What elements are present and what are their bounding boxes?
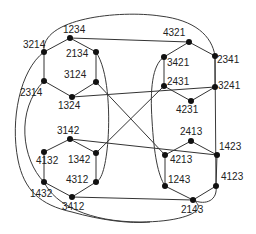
vertex-label: 1243 [168,174,191,185]
edge-3421-1243 [151,57,165,186]
vertex-label: 2143 [181,204,204,215]
vertex-label: 1234 [63,24,86,35]
diagram-canvas: 1234213431241324231432144321234132414231… [0,0,256,234]
vertex-1234 [67,35,73,41]
vertex-label: 2431 [167,76,190,87]
vertex-1432 [41,179,47,185]
edge-3421-4321 [164,42,189,57]
vertex-label: 4132 [36,155,59,166]
vertex-label: 3241 [218,80,241,91]
edge-3241-4231 [191,87,215,101]
edge-1324-3241 [72,87,215,97]
edge-3124-1324 [72,82,96,97]
vertex-3142 [67,136,73,142]
edge-2134-4312 [96,52,109,182]
vertex-1423 [214,152,220,158]
vertex-label: 1432 [30,188,53,199]
edge-2143-1243 [165,186,193,200]
vertex-label: 4213 [170,154,193,165]
vertex-label: 1423 [219,141,242,152]
vertex-label: 4321 [163,27,186,38]
vertex-label: 4312 [66,174,89,185]
edge-1234-4321 [70,38,189,42]
cayley-graph: 1234213431241324231432144321234132414231… [0,0,256,234]
vertex-label: 2341 [217,54,240,65]
edge-3142-1423 [70,139,217,155]
vertex-label: 2134 [66,48,89,59]
vertex-2143 [190,197,196,203]
edge-4213-2413 [165,141,191,155]
vertex-label: 3412 [62,201,85,212]
vertex-label: 3214 [23,39,46,50]
vertex-label: 2413 [180,126,203,137]
vertex-4312 [93,179,99,185]
vertex-4213 [162,152,168,158]
edge-4123-2143 [193,186,216,200]
vertex-2314 [41,78,47,84]
vertex-label: 3142 [57,125,80,136]
vertex-3412 [69,194,75,200]
vertex-label: 4231 [176,104,199,115]
vertex-2413 [188,138,194,144]
vertex-label: 3124 [64,69,87,80]
edge-4231-2431 [164,86,191,101]
vertex-3124 [93,79,99,85]
vertex-label: 3421 [167,57,190,68]
vertex-label: 2314 [20,87,43,98]
vertex-1342 [93,150,99,156]
vertex-label: 1342 [68,154,91,165]
vertex-4123 [213,183,219,189]
edge-4132-3142 [44,139,70,152]
edge-1324-2314 [44,81,72,97]
vertex-4321 [186,39,192,45]
edge-3412-2143 [72,197,193,200]
vertex-label: 4123 [221,171,244,182]
vertex-label: 1324 [58,100,81,111]
vertex-2134 [93,49,99,55]
